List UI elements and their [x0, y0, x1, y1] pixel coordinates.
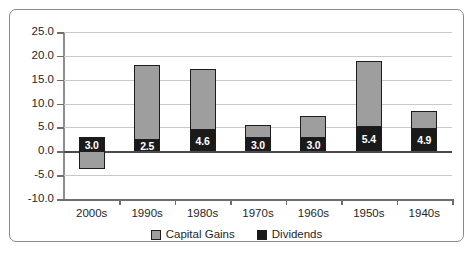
y-axis-tick: [57, 199, 64, 201]
bar-segment-dividends[interactable]: 4.9: [411, 128, 437, 151]
bar-segment-dividends[interactable]: 3.0: [300, 137, 326, 151]
x-axis-tick: [230, 199, 232, 205]
chart-frame: 25.020.015.010.05.00.0-5.0-10.0 3.02.54.…: [9, 9, 464, 242]
bar-segment-capital-gains[interactable]: [300, 116, 326, 138]
x-axis-tick: [341, 199, 343, 205]
bar-segment-dividends[interactable]: 4.6: [190, 129, 216, 151]
bar-group[interactable]: 4.6: [175, 32, 230, 199]
bar-group[interactable]: 3.0: [64, 32, 119, 199]
y-axis-tick: [57, 175, 64, 177]
x-axis-tick-label: 1960s: [298, 208, 329, 220]
y-axis-tick-label: 10.0: [10, 98, 54, 110]
bar-value-label: 5.4: [357, 134, 381, 145]
legend-swatch-icon: [257, 230, 267, 240]
x-axis-tick-label: 1970s: [242, 208, 273, 220]
x-axis-tick-label: 2000s: [76, 208, 107, 220]
legend-item[interactable]: Dividends: [257, 229, 323, 241]
x-axis-tick: [286, 199, 288, 205]
bar-segment-dividends[interactable]: 2.5: [134, 139, 160, 151]
bar-value-label: 4.9: [412, 135, 436, 146]
y-axis-tick-label: 15.0: [10, 74, 54, 86]
bar-segment-capital-gains[interactable]: [356, 61, 382, 127]
y-axis-tick: [57, 127, 64, 129]
y-axis-tick-label: 20.0: [10, 50, 54, 62]
x-axis-tick: [175, 199, 177, 205]
bar-segment-capital-gains[interactable]: [190, 69, 216, 130]
x-axis-tick: [452, 199, 454, 205]
y-axis-tick: [57, 56, 64, 58]
y-axis-tick: [57, 104, 64, 106]
bar-value-label: 4.6: [191, 136, 215, 147]
x-axis-tick-label: 1940s: [409, 208, 440, 220]
chart-legend: Capital GainsDividends: [10, 229, 463, 241]
y-axis-tick-label: -10.0: [10, 193, 54, 205]
x-axis-tick-label: 1980s: [187, 208, 218, 220]
legend-label: Dividends: [272, 229, 323, 241]
bar-segment-capital-gains[interactable]: [245, 125, 271, 138]
y-axis-tick: [57, 32, 64, 34]
x-axis-tick-label: 1990s: [131, 208, 162, 220]
bar-value-label: 3.0: [301, 140, 325, 151]
legend-swatch-icon: [151, 230, 161, 240]
bar-value-label: 3.0: [80, 140, 104, 151]
x-axis-line: [64, 199, 452, 201]
y-axis-tick: [57, 151, 64, 153]
y-axis-tick: [57, 80, 64, 82]
bar-value-label: 3.0: [246, 140, 270, 151]
bar-group[interactable]: 3.0: [230, 32, 285, 199]
bar-group[interactable]: 4.9: [397, 32, 452, 199]
y-axis-tick-label: -5.0: [10, 169, 54, 181]
y-axis-tick-label: 5.0: [10, 122, 54, 134]
bar-segment-capital-gains[interactable]: [79, 151, 105, 169]
y-axis-labels: 25.020.015.010.05.00.0-5.0-10.0: [10, 32, 54, 199]
bar-segment-dividends[interactable]: 5.4: [356, 126, 382, 152]
bar-segment-capital-gains[interactable]: [411, 111, 437, 129]
y-axis-tick-label: 0.0: [10, 146, 54, 158]
bar-segment-dividends[interactable]: 3.0: [79, 137, 105, 151]
bar-segment-capital-gains[interactable]: [134, 65, 160, 140]
bar-group[interactable]: 5.4: [341, 32, 396, 199]
bar-segment-dividends[interactable]: 3.0: [245, 137, 271, 151]
y-axis-tick-label: 25.0: [10, 26, 54, 38]
x-axis-tick-label: 1950s: [353, 208, 384, 220]
bar-value-label: 2.5: [135, 141, 159, 152]
x-axis-tick: [119, 199, 121, 205]
legend-item[interactable]: Capital Gains: [151, 229, 235, 241]
legend-label: Capital Gains: [166, 229, 235, 241]
bar-group[interactable]: 3.0: [286, 32, 341, 199]
plot-area: 3.02.54.63.03.05.44.9: [64, 32, 452, 199]
bar-group[interactable]: 2.5: [119, 32, 174, 199]
x-axis-tick: [397, 199, 399, 205]
